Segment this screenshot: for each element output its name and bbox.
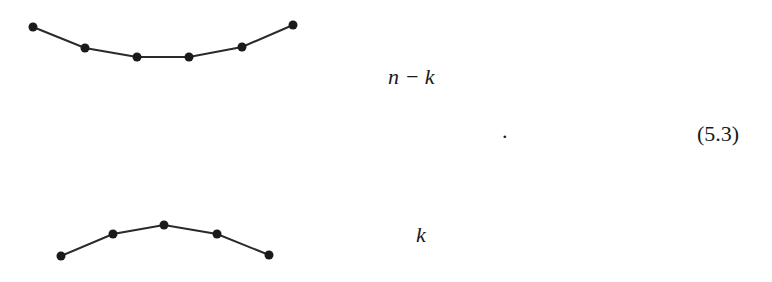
top-curve-label: n − k bbox=[388, 64, 435, 90]
curve-node bbox=[265, 251, 274, 260]
curve-node bbox=[81, 44, 90, 53]
curve-node bbox=[289, 21, 298, 30]
equation-period: . bbox=[502, 118, 508, 144]
curve-node bbox=[160, 221, 169, 230]
curve-node bbox=[109, 230, 118, 239]
curves-diagram bbox=[0, 0, 772, 282]
equation-number: (5.3) bbox=[697, 121, 739, 147]
curve-node bbox=[213, 230, 222, 239]
curve-node bbox=[29, 23, 38, 32]
curve-node bbox=[133, 53, 142, 62]
curve-node bbox=[185, 53, 194, 62]
bottom-curve-label: k bbox=[416, 222, 426, 248]
bottom-curve bbox=[57, 221, 274, 261]
curve-node bbox=[57, 252, 66, 261]
top-curve bbox=[29, 21, 298, 62]
curve-node bbox=[238, 43, 247, 52]
